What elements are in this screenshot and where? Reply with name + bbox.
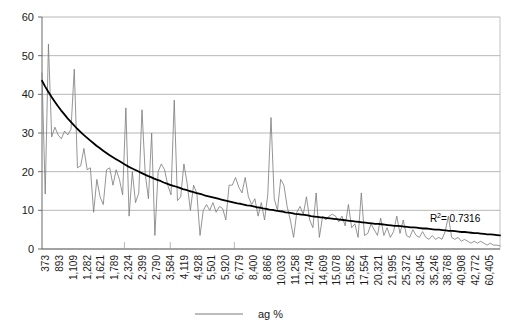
x-axis-tick-label: 15,852 [345, 255, 356, 286]
x-axis-tick-label: 6,779 [234, 255, 245, 280]
y-axis-tick-label: 20 [22, 166, 34, 178]
x-axis-tick-label: 12,749 [304, 255, 315, 286]
x-axis-tick-label: 8,866 [262, 255, 273, 280]
y-axis-tick-label: 60 [22, 11, 34, 23]
x-axis-tick-label: 893 [54, 255, 65, 272]
x-axis-tick-label: 14,609 [318, 255, 329, 286]
x-axis-tick-label: 32,045 [415, 255, 426, 286]
x-axis-tick-label: 1,282 [82, 255, 93, 280]
x-axis-tick-label: 60,405 [484, 255, 495, 286]
legend-label-ag-percent: ag % [258, 308, 283, 320]
x-axis-tick-label: 1,109 [68, 255, 79, 280]
x-axis-tick-label: 11,258 [290, 255, 301, 285]
x-axis-tick-label: 1,621 [95, 255, 106, 280]
x-axis-tick-label: 35,246 [429, 255, 440, 286]
x-axis-tick-label: 2,324 [123, 255, 134, 280]
x-axis-tick-label: 1,789 [109, 255, 120, 280]
x-axis-tick-label: 21,995 [387, 255, 398, 286]
x-axis-tick-label: 3,584 [165, 255, 176, 280]
x-axis-tick-label: 42,772 [470, 255, 481, 286]
chart-canvas: 0102030405060 3738931,1091,2821,6211,789… [0, 0, 511, 327]
x-axis-tick-label: 38,768 [442, 255, 453, 286]
x-axis-tick-label: 373 [40, 255, 51, 272]
x-axis-tick-label: 4,119 [179, 255, 190, 280]
y-axis-tick-label: 0 [28, 243, 34, 255]
x-axis-tick-label: 25,372 [401, 255, 412, 286]
x-axis-tick-label: 5,920 [220, 255, 231, 280]
x-axis-tick-label: 15,078 [331, 255, 342, 286]
x-axis-tick-label: 2,790 [151, 255, 162, 280]
x-axis-tick-label: 8,400 [248, 255, 259, 280]
y-axis-tick-label: 30 [22, 127, 34, 139]
r-squared-value: = 0.7316 [441, 213, 481, 224]
y-axis-tick-label: 40 [22, 88, 34, 100]
x-axis-tick-label: 4,928 [193, 255, 204, 280]
y-axis-tick-label: 50 [22, 50, 34, 62]
x-axis-tick-label: 20,321 [373, 255, 384, 286]
y-axis-tick-label: 10 [22, 204, 34, 216]
x-axis-tick-label: 40,908 [456, 255, 467, 286]
x-axis-tick-label: 17,554 [359, 255, 370, 286]
chart-container: 0102030405060 3738931,1091,2821,6211,789… [0, 0, 511, 327]
x-axis-tick-label: 2,399 [137, 255, 148, 280]
x-axis-tick-label: 5,501 [206, 255, 217, 280]
x-axis-tick-label: 10,033 [276, 255, 287, 286]
